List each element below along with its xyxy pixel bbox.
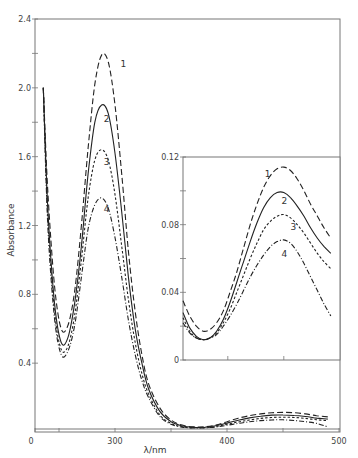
x-axis-label: λ/nm [144, 445, 167, 455]
curve-label-1: 1 [121, 59, 127, 69]
curve-label-3: 3 [104, 157, 110, 167]
inset-y-axis: 00.040.080.12 [161, 153, 186, 365]
y-tick-label: 0.08 [161, 221, 179, 230]
curve-label-2: 2 [104, 114, 110, 124]
y-tick-label: 2.0 [18, 84, 31, 93]
curve-label-3: 3 [291, 222, 297, 232]
y-axis-label: Absorbance [6, 203, 16, 257]
curve-label-4: 4 [282, 249, 288, 259]
y-tick-label: 0.8 [18, 290, 31, 299]
y-tick-label: 1.2 [18, 222, 31, 231]
main-x-axis: 0300400500 [28, 428, 346, 446]
x-tick-label: 0 [28, 437, 33, 446]
inset-plot: 00.040.080.12 1234 [161, 153, 340, 365]
x-tick-label: 300 [107, 437, 122, 446]
y-tick-label: 0.12 [161, 153, 179, 162]
curve-label-1: 1 [265, 169, 271, 179]
x-tick-label: 500 [331, 437, 346, 446]
y-tick-label: 0.04 [161, 288, 179, 297]
y-tick-label: 0.4 [18, 359, 31, 368]
curve-label-2: 2 [282, 196, 288, 206]
x-tick-label: 400 [219, 437, 234, 446]
y-tick-label: 0 [174, 356, 179, 365]
y-tick-label: 2.4 [18, 15, 31, 24]
curve-label-4: 4 [104, 204, 110, 214]
absorbance-spectrum-chart: 0.40.81.21.62.02.4 0300400500 1234 Absor… [0, 0, 358, 458]
y-tick-label: 1.6 [18, 153, 31, 162]
